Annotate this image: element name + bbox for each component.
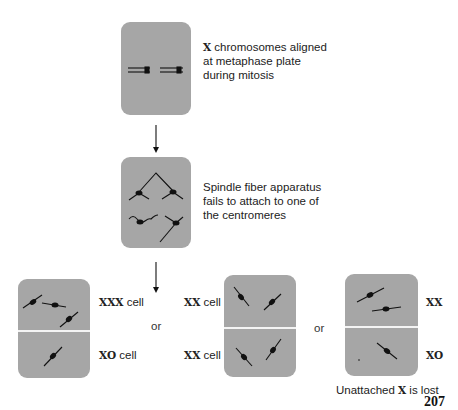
label-suffix: cell	[123, 296, 143, 308]
outcome-3-top-label: XX	[426, 296, 442, 308]
outcome-2-top-label: XX cell	[184, 296, 221, 308]
label-suffix: cell	[200, 349, 220, 361]
or-separator-2: or	[314, 322, 324, 334]
or-separator-1: or	[151, 320, 161, 332]
outcome-1-top-label: XXX cell	[99, 296, 144, 308]
page-number: 207	[424, 394, 445, 410]
karyotype: XX	[426, 296, 442, 308]
note-text: Unattached	[336, 384, 398, 396]
chromosome-pair-2	[160, 67, 183, 73]
karyotype: XXX	[99, 296, 123, 308]
chromosome-pair-1	[128, 67, 150, 73]
label-suffix: cell	[116, 349, 136, 361]
karyotype: XX	[184, 349, 200, 361]
label-suffix: cell	[200, 296, 220, 308]
outcome-2-bottom-label: XX cell	[184, 349, 221, 361]
outcome-1-bottom-label: XO cell	[99, 349, 137, 361]
outcome-3-bottom-label: XO	[426, 349, 443, 361]
x-bold: X	[398, 384, 406, 396]
karyotype: XO	[99, 349, 116, 361]
karyotype: XX	[184, 296, 200, 308]
chromosome-drawings	[0, 0, 458, 410]
karyotype: XO	[426, 349, 443, 361]
